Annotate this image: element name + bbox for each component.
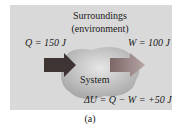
figure-caption: (a)	[70, 113, 110, 124]
surroundings-label: Surroundings	[60, 10, 140, 21]
energy-equation: ΔU = Q − W = +50 J	[84, 94, 172, 105]
environment-label: (environment)	[55, 23, 145, 34]
work-label: W = 100 J	[128, 37, 170, 48]
system-label: System	[80, 74, 109, 85]
system-blob	[61, 47, 139, 99]
heat-label: Q = 150 J	[25, 37, 66, 48]
